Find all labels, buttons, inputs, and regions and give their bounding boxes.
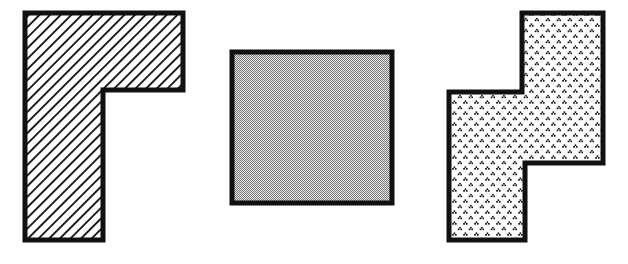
figure-canvas xyxy=(0,0,628,264)
square-shape xyxy=(232,52,392,203)
shapes-figure xyxy=(0,0,628,264)
